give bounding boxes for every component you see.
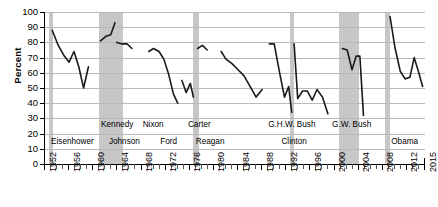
x-tick-label-2000: 2000 (337, 152, 347, 172)
x-tick-label-1964: 1964 (120, 152, 130, 172)
approval-segment-johnson (117, 42, 132, 48)
x-tick-mark-1976 (189, 164, 190, 170)
x-axis-end-cap (424, 158, 425, 165)
y-tick-label-20: 20 (12, 129, 38, 139)
y-tick-label-30: 30 (12, 113, 38, 123)
x-tick-mark-1992 (285, 164, 286, 170)
x-tick-mark-1959 (86, 164, 87, 169)
x-tick-mark-2000 (334, 164, 335, 170)
y-tick-label-60: 60 (12, 68, 38, 78)
x-tick-label-1980: 1980 (216, 152, 226, 172)
x-tick-mark-1952 (44, 164, 45, 170)
x-tick-mark-1960 (92, 164, 93, 170)
x-tick-mark-1967 (134, 164, 135, 169)
x-tick-mark-1980 (213, 164, 214, 170)
approval-segment-kennedy (100, 23, 114, 41)
approval-segment-ford (182, 80, 193, 97)
x-tick-label-2008: 2008 (385, 152, 395, 172)
x-tick-label-1996: 1996 (313, 152, 323, 172)
approval-segment-nixon (149, 48, 178, 103)
y-tick-label-90: 90 (12, 22, 38, 32)
x-tick-mark-1999 (327, 164, 328, 169)
x-tick-mark-1996 (309, 164, 310, 170)
x-tick-label-2012: 2012 (409, 152, 419, 172)
x-tick-mark-1979 (207, 164, 208, 169)
approval-segment-eisenhower (52, 30, 88, 88)
x-tick-label-1960: 1960 (96, 152, 106, 172)
plot-clip: KennedyNixonCarterG.H.W. BushG.W. BushEi… (45, 12, 425, 164)
x-tick-mark-2011 (400, 164, 401, 169)
x-tick-mark-1988 (261, 164, 262, 170)
x-tick-mark-1984 (237, 164, 238, 170)
x-tick-mark-1975 (183, 164, 184, 169)
approval-segment-carter (198, 45, 208, 50)
x-tick-mark-2004 (358, 164, 359, 170)
x-tick-label-1956: 1956 (72, 152, 82, 172)
approval-segment-g-w-bush (342, 48, 363, 115)
y-tick-label-0: 0 (12, 159, 38, 169)
x-tick-mark-1987 (255, 164, 256, 169)
x-tick-mark-2003 (352, 164, 353, 169)
x-tick-label-1988: 1988 (265, 152, 275, 172)
x-tick-mark-1972 (165, 164, 166, 170)
x-tick-label-1976: 1976 (192, 152, 202, 172)
x-tick-mark-1964 (116, 164, 117, 170)
x-tick-mark-2007 (376, 164, 377, 169)
approval-line-series (45, 12, 425, 164)
x-tick-mark-1983 (231, 164, 232, 169)
x-tick-mark-1991 (279, 164, 280, 169)
y-tick-label-70: 70 (12, 53, 38, 63)
x-tick-mark-2008 (382, 164, 383, 170)
plot-area: KennedyNixonCarterG.H.W. BushG.W. BushEi… (44, 12, 425, 164)
x-tick-mark-1971 (159, 164, 160, 169)
y-tick-label-10: 10 (12, 144, 38, 154)
approval-segment-g-h-w-bush (269, 44, 291, 112)
x-tick-mark-1963 (110, 164, 111, 169)
x-tick-mark-1956 (68, 164, 69, 170)
approval-segment-reagan (221, 52, 262, 98)
x-tick-label-1984: 1984 (241, 152, 251, 172)
y-tick-label-50: 50 (12, 83, 38, 93)
x-tick-label-1968: 1968 (144, 152, 154, 172)
x-tick-label-1992: 1992 (289, 152, 299, 172)
x-tick-label-2004: 2004 (361, 152, 371, 172)
x-tick-label-2015: 2015 (428, 152, 438, 172)
x-tick-label-1972: 1972 (168, 152, 178, 172)
y-tick-label-40: 40 (12, 98, 38, 108)
x-tick-mark-1995 (303, 164, 304, 169)
y-tick-label-100: 100 (12, 7, 38, 17)
x-tick-label-1952: 1952 (48, 152, 58, 172)
approval-segment-obama (390, 17, 423, 87)
y-tick-label-80: 80 (12, 37, 38, 47)
x-tick-mark-1968 (141, 164, 142, 170)
x-tick-mark-2012 (406, 164, 407, 170)
x-tick-mark-1955 (62, 164, 63, 169)
approval-segment-clinton (294, 44, 328, 114)
